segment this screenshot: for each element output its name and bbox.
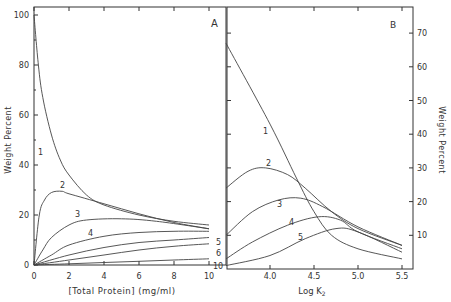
svg-text:80: 80 [19, 61, 29, 70]
svg-text:5: 5 [298, 233, 303, 242]
curve-1 [34, 15, 209, 225]
svg-text:20: 20 [417, 198, 427, 207]
svg-text:100: 100 [14, 11, 29, 20]
curve-2 [226, 168, 402, 246]
svg-text:40: 40 [417, 130, 427, 139]
svg-text:5: 5 [216, 238, 221, 247]
svg-text:10: 10 [417, 231, 427, 240]
panel-a-curves: 12345610 [34, 15, 223, 271]
panel-b: 10203040506070 4.04.55.05.5 12345 B Weig… [226, 7, 446, 297]
svg-text:0: 0 [24, 261, 29, 270]
panel-a-y-axis-label: Weight Percent [4, 106, 13, 174]
svg-text:5.5: 5.5 [396, 272, 409, 281]
svg-text:8: 8 [171, 272, 176, 281]
svg-text:40: 40 [19, 161, 29, 170]
curve-1 [226, 43, 402, 259]
panel-b-y-axis-label: Weight Percent [437, 106, 446, 174]
svg-text:10: 10 [204, 272, 214, 281]
panel-a: 020406080100 0246810 12345610 A Weight P… [4, 7, 226, 296]
panel-b-curves: 12345 [226, 43, 402, 265]
svg-text:3: 3 [277, 200, 282, 209]
svg-text:50: 50 [417, 97, 427, 106]
svg-text:4.0: 4.0 [264, 272, 277, 281]
svg-text:5.0: 5.0 [352, 272, 365, 281]
panel-b-x-axis-label: Log K2 [298, 286, 325, 297]
panel-a-label: A [211, 18, 218, 29]
panel-b-label: B [390, 20, 396, 30]
panel-a-frame [34, 7, 226, 265]
svg-text:70: 70 [417, 29, 427, 38]
svg-text:4.5: 4.5 [308, 272, 321, 281]
svg-text:3: 3 [75, 210, 80, 219]
svg-text:10: 10 [213, 262, 223, 271]
figure: 020406080100 0246810 12345610 A Weight P… [0, 0, 451, 302]
curve-10 [34, 259, 209, 265]
svg-text:2: 2 [60, 181, 65, 190]
svg-text:4: 4 [88, 229, 93, 238]
svg-text:1: 1 [38, 148, 43, 157]
svg-text:6: 6 [136, 272, 141, 281]
svg-text:1: 1 [263, 127, 268, 136]
svg-text:30: 30 [417, 164, 427, 173]
svg-text:6: 6 [216, 249, 221, 258]
svg-text:4: 4 [101, 272, 106, 281]
svg-text:2: 2 [266, 159, 271, 168]
curve-4 [226, 217, 402, 259]
svg-text:4: 4 [289, 218, 294, 227]
panel-a-x-axis-label: [Total Protein] (mg/ml) [69, 286, 176, 296]
svg-text:0: 0 [31, 272, 36, 281]
curve-2 [34, 191, 209, 265]
curve-5 [226, 228, 402, 266]
svg-text:60: 60 [19, 111, 29, 120]
panel-a-x-ticks: 0246810 [31, 7, 214, 281]
curve-3 [226, 198, 402, 246]
curve-3 [34, 219, 209, 265]
svg-text:2: 2 [66, 272, 71, 281]
panel-b-frame [227, 7, 413, 269]
svg-text:20: 20 [19, 211, 29, 220]
svg-text:60: 60 [417, 63, 427, 72]
